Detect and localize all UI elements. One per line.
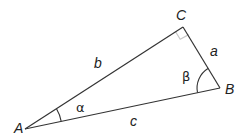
side-b <box>25 27 183 129</box>
angle-label-beta: β <box>182 69 190 84</box>
side-label-b: b <box>94 55 102 71</box>
angle-arc-alpha <box>57 109 62 122</box>
angle-arc-beta <box>197 69 208 93</box>
side-c <box>25 88 220 129</box>
side-label-c: c <box>130 113 137 129</box>
vertex-label-a: A <box>13 120 23 136</box>
side-label-a: a <box>210 43 218 59</box>
vertex-label-b: B <box>225 81 234 97</box>
angle-label-alpha: α <box>76 100 85 115</box>
vertex-label-c: C <box>176 7 187 23</box>
triangle-diagram: A B C a b c α β <box>0 0 244 138</box>
